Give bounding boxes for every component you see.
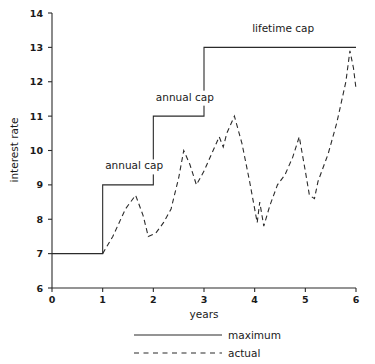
y-tick-label: 11 [30,111,43,122]
x-tick-label: 6 [353,294,360,305]
legend-label-actual: actual [228,347,260,359]
chart-legend: maximum actual [134,329,281,359]
y-tick-label: 13 [30,42,43,53]
legend-label-maximum: maximum [228,329,281,341]
series-actual-line [103,51,356,254]
x-tick-label: 5 [302,294,309,305]
y-axis-ticks: 67891011121314 [30,8,52,294]
interest-rate-chart: interest rate 67891011121314 0123456 yea… [0,0,375,364]
y-tick-label: 9 [36,179,43,190]
x-tick-label: 3 [201,294,208,305]
x-tick-label: 0 [49,294,56,305]
chart-annotations: annual capannual caplifetime cap [101,22,329,175]
x-tick-label: 1 [99,294,106,305]
annotation-annual-cap-2: annual cap [156,91,214,103]
x-axis-ticks: 0123456 [49,288,360,305]
chart-container: interest rate 67891011121314 0123456 yea… [0,0,375,364]
y-tick-label: 10 [30,145,44,156]
y-tick-label: 14 [30,8,44,19]
y-tick-label: 8 [36,214,43,225]
x-tick-label: 4 [251,294,258,305]
x-tick-label: 2 [150,294,157,305]
annotation-annual-cap-1: annual cap [105,159,163,171]
y-axis-title: interest rate [8,118,20,183]
y-tick-label: 12 [30,76,43,87]
y-tick-label: 6 [36,283,43,294]
x-axis-title: years [190,308,219,320]
series-maximum-line [52,47,356,253]
annotation-lifetime-cap: lifetime cap [252,22,314,34]
y-tick-label: 7 [36,248,43,259]
